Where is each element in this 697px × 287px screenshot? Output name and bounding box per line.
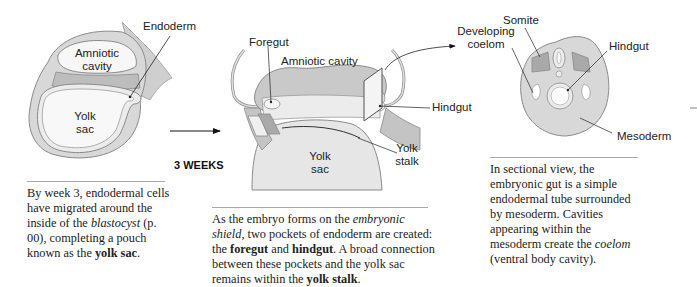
label-foregut: Foregut	[249, 36, 289, 49]
label-yolk-stalk-line1: Yolk	[392, 142, 422, 155]
caption-1-term-yolk-sac: yolk sac	[95, 246, 137, 260]
panel-1-illustration	[29, 22, 172, 158]
caption-1-rule	[27, 181, 165, 182]
caption-2-text-a: As the embryo forms on the	[212, 212, 353, 226]
caption-3-text-b: (ventral body cavity).	[490, 252, 596, 266]
label-mesoderm: Mesoderm	[617, 130, 671, 143]
label-somite: Somite	[503, 14, 539, 27]
caption-1: By week 3, endodermal cells have migrate…	[27, 186, 172, 261]
label-yolk-sac-line1: Yolk	[305, 150, 335, 163]
caption-2-text-e: .	[358, 272, 361, 286]
caption-3-term-coelom: coelom	[595, 237, 631, 251]
caption-1-term-blastocyst: blastocyst	[91, 216, 140, 230]
caption-2-term-yolk-stalk: yolk stalk	[307, 272, 358, 286]
label-amniotic-cavity: Amniotic cavity	[281, 55, 358, 68]
caption-2-term-hindgut: hindgut	[292, 242, 333, 256]
label-yolk-sac-line2: sac	[65, 123, 105, 136]
label-yolk-stalk-line2: stalk	[392, 155, 422, 168]
panel-3-illustration	[512, 28, 612, 136]
label-amniotic-cavity-line1: Amniotic	[67, 47, 127, 60]
label-developing-coelom-line2: coelom	[456, 38, 516, 51]
label-yolk-sac-line2: sac	[305, 163, 335, 176]
caption-3-rule	[490, 157, 638, 158]
caption-2-term-foregut: foregut	[230, 242, 268, 256]
label-endoderm: Endoderm	[143, 20, 196, 33]
label-yolk-sac-line1: Yolk	[65, 110, 105, 123]
label-amniotic-cavity-line2: cavity	[67, 60, 127, 73]
caption-1-text-c: .	[137, 246, 140, 260]
caption-2-rule	[212, 207, 428, 208]
caption-2-text-c: and	[268, 242, 292, 256]
label-hindgut-section: Hindgut	[609, 40, 649, 53]
caption-3: In sectional view, the embryonic gut is …	[490, 162, 642, 267]
stage-label-3-weeks: 3 WEEKS	[174, 159, 224, 171]
caption-2: As the embryo forms on the embryonic shi…	[212, 212, 437, 287]
label-hindgut: Hindgut	[432, 101, 472, 114]
